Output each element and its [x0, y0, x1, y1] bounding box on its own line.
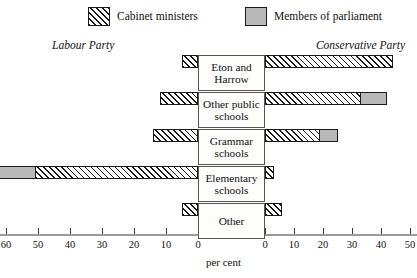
bar-cabinet-labour: [182, 55, 198, 68]
axis-tick: [70, 228, 71, 234]
category-label: Eton and Harrow: [199, 61, 264, 85]
legend-label-members-of-parliament: Members of parliament: [274, 11, 382, 23]
axis-tick-label: 0: [253, 239, 277, 250]
axis-tick: [323, 228, 324, 234]
table-row: Grammar schools: [0, 129, 417, 165]
bar-cabinet-conservative: [265, 166, 274, 179]
bar-cabinet-labour: [182, 203, 198, 216]
axis-tick-label: 20: [122, 239, 146, 250]
axis-tick-label: 20: [311, 239, 335, 250]
axis-tick-label: 50: [26, 239, 50, 250]
category-label: Elementary schools: [199, 172, 264, 196]
axis-tick: [352, 228, 353, 234]
axis-tick: [294, 228, 295, 234]
axis-tick: [381, 228, 382, 234]
table-row: Elementary schools: [0, 166, 417, 202]
legend-item-members-of-parliament: Members of parliament: [245, 7, 382, 26]
category-label: Other: [219, 215, 245, 227]
table-row: Other public schools: [0, 92, 417, 128]
axis-tick-label: 40: [58, 239, 82, 250]
chart-container: Cabinet ministers Members of parliament …: [0, 0, 417, 278]
axis-tick-label: 50: [398, 239, 417, 250]
axis-tick-label: 0: [186, 239, 210, 250]
category-label-box: Grammar schools: [198, 129, 265, 165]
bar-cabinet-conservative: [265, 203, 282, 216]
category-label: Grammar schools: [199, 135, 264, 159]
axis-tick-label: 30: [90, 239, 114, 250]
party-label-conservative: Conservative Party: [316, 39, 405, 51]
hatched-swatch-icon: [88, 7, 110, 26]
category-label-box: Other: [198, 203, 265, 239]
axis-tick-label: 10: [154, 239, 178, 250]
plot-area: Eton and Harrow Other public schools Gra…: [0, 55, 417, 235]
axis-tick: [38, 228, 39, 234]
axis-tick: [265, 228, 266, 234]
x-axis-title: per cent: [0, 256, 417, 268]
axis-tick-label: 10: [282, 239, 306, 250]
category-label: Other public schools: [199, 98, 264, 122]
party-label-labour: Labour Party: [52, 39, 114, 51]
bar-cabinet-labour: [153, 129, 198, 142]
bar-cabinet-labour: [160, 92, 198, 105]
axis-tick: [166, 228, 167, 234]
bar-cabinet-conservative: [265, 92, 361, 105]
table-row: Eton and Harrow: [0, 55, 417, 91]
category-label-box: Elementary schools: [198, 166, 265, 202]
axis-tick: [102, 228, 103, 234]
solid-gray-swatch-icon: [245, 7, 267, 26]
axis-tick: [6, 228, 7, 234]
axis-tick-label: 40: [369, 239, 393, 250]
bar-cabinet-conservative: [265, 55, 393, 68]
category-label-box: Eton and Harrow: [198, 55, 265, 91]
bar-cabinet-labour: [35, 166, 198, 179]
legend-label-cabinet-ministers: Cabinet ministers: [117, 11, 198, 23]
axis-tick-label: 30: [340, 239, 364, 250]
bar-cabinet-conservative: [265, 129, 320, 142]
axis-tick: [410, 228, 411, 234]
category-label-box: Other public schools: [198, 92, 265, 128]
axis-tick-label: 60: [0, 239, 18, 250]
legend-item-cabinet-ministers: Cabinet ministers: [88, 7, 198, 26]
axis-tick: [134, 228, 135, 234]
chart-legend: Cabinet ministers Members of parliament: [0, 6, 417, 32]
